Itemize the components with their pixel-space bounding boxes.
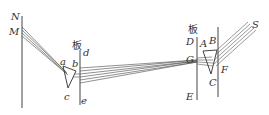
label-e-upper: E: [185, 91, 194, 102]
label-c-upper: C: [209, 77, 217, 88]
rays-to-m: [22, 27, 68, 75]
label-b: b: [72, 58, 78, 69]
optics-diagram: N M 板 d a b c e 板 D A B G C F E S: [0, 0, 269, 115]
label-n: N: [10, 11, 21, 22]
label-m: M: [8, 26, 20, 37]
label-d: d: [83, 47, 89, 58]
label-s: S: [252, 19, 259, 30]
spectrum-fan: [80, 60, 197, 83]
label-board-left: 板: [72, 39, 82, 51]
label-e: e: [81, 95, 87, 106]
label-a-upper: A: [199, 38, 207, 49]
label-f: F: [220, 64, 229, 75]
label-c: c: [64, 91, 70, 102]
label-d-upper: D: [185, 36, 194, 47]
prism-abc: [203, 50, 217, 74]
diagram: N M 板 d a b c e 板 D A B G C F E S: [0, 0, 269, 115]
label-g: G: [186, 54, 194, 65]
label-a: a: [60, 56, 66, 67]
label-board-right: 板: [188, 23, 198, 35]
label-b-upper: B: [208, 35, 216, 46]
